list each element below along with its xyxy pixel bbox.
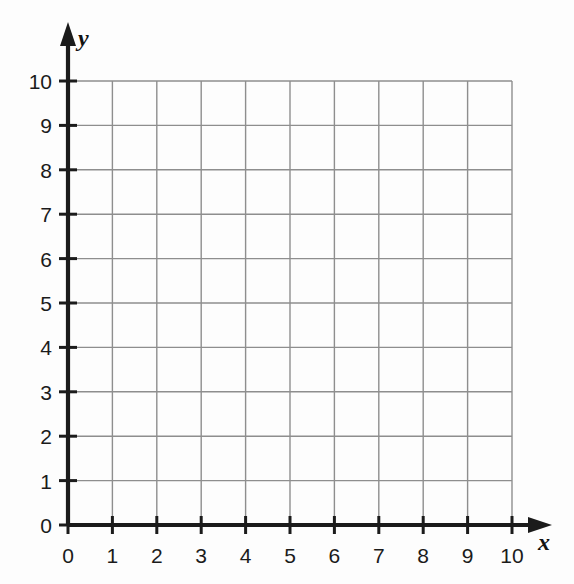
x-axis-tick-label: 4 [240,545,252,566]
y-axis-tick-label: 5 [40,293,52,314]
axis-arrowheads-group [60,22,552,533]
y-axis-tick-label: 2 [40,426,52,447]
x-axis-tick-label: 9 [462,545,474,566]
x-axis-tick-label: 6 [329,545,341,566]
y-axis-tick-label: 7 [40,204,52,225]
x-axis-tick-label: 0 [62,545,74,566]
x-axis-tick-label: 7 [373,545,385,566]
axis-lines-group [68,42,532,525]
x-axis-label: x [538,530,550,554]
x-axis-tick-label: 10 [500,545,523,566]
grid-lines-group [68,81,512,525]
y-axis-tick-label: 4 [40,337,52,358]
x-axis-tick-label: 5 [284,545,296,566]
y-axis-tick-label: 9 [40,115,52,136]
tick-marks-group [59,81,512,534]
y-axis-tick-label: 6 [40,248,52,269]
x-axis-tick-label: 1 [107,545,119,566]
y-axis-tick-label: 3 [40,381,52,402]
y-axis-tick-label: 8 [40,159,52,180]
y-axis-tick-label: 1 [40,470,52,491]
y-axis-tick-label: 10 [29,71,52,92]
y-axis-tick-label: 0 [40,515,52,536]
grid-canvas [0,0,574,584]
x-axis-tick-label: 2 [151,545,163,566]
x-axis-tick-label: 3 [195,545,207,566]
x-axis-tick-label: 8 [417,545,429,566]
y-axis-label: y [78,26,89,50]
coordinate-grid-figure: 012345678910 012345678910 y x [0,0,574,584]
y-axis-arrowhead-icon [60,22,76,46]
